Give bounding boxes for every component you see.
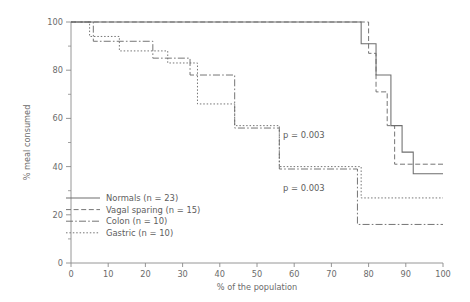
x-tick-label: 50 xyxy=(252,269,262,279)
x-tick-label: 20 xyxy=(140,269,150,279)
legend-label-0: Normals (n = 23) xyxy=(106,193,178,203)
x-tick-label: 30 xyxy=(177,269,187,279)
x-tick-label: 70 xyxy=(326,269,336,279)
x-axis-title: % of the population xyxy=(217,282,297,292)
x-tick-label: 0 xyxy=(68,269,73,279)
y-tick-label: 20 xyxy=(53,210,63,220)
p-value-annotation-0: p = 0.003 xyxy=(283,130,325,140)
kaplan-meier-step-chart: 0204060801000102030405060708090100% of t… xyxy=(0,0,470,302)
y-tick-label: 0 xyxy=(58,258,63,268)
x-tick-label: 90 xyxy=(401,269,411,279)
p-value-annotation-1: p = 0.003 xyxy=(283,183,325,193)
y-axis-title: % meal consumed xyxy=(22,105,32,181)
legend-label-3: Gastric (n = 10) xyxy=(106,228,173,238)
y-tick-label: 40 xyxy=(53,162,63,172)
series-line-1 xyxy=(71,22,443,164)
legend-label-2: Colon (n = 10) xyxy=(106,216,167,226)
y-tick-label: 80 xyxy=(53,65,63,75)
y-tick-label: 60 xyxy=(53,113,63,123)
x-tick-label: 10 xyxy=(103,269,113,279)
legend-label-1: Vagal sparing (n = 15) xyxy=(106,205,200,215)
x-tick-label: 100 xyxy=(435,269,451,279)
chart-container: 0204060801000102030405060708090100% of t… xyxy=(0,0,470,302)
x-tick-label: 80 xyxy=(363,269,373,279)
x-tick-label: 60 xyxy=(289,269,299,279)
y-tick-label: 100 xyxy=(47,17,63,27)
x-tick-label: 40 xyxy=(215,269,225,279)
